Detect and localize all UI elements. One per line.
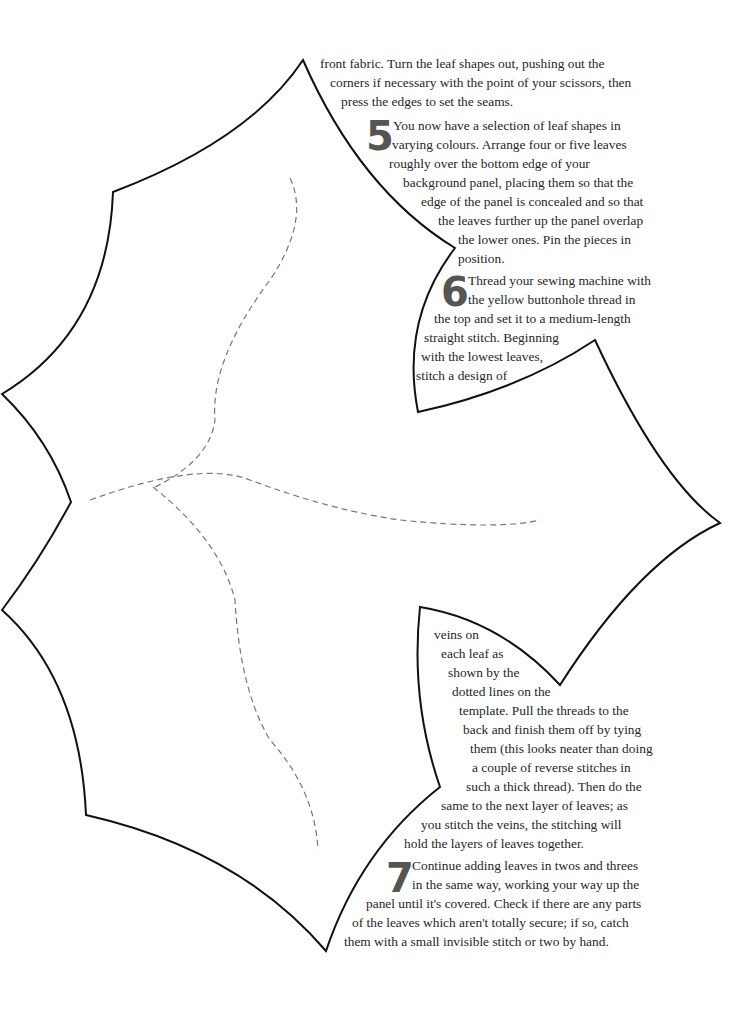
step-6-line: veins on xyxy=(434,627,479,643)
step-7-line: in the same way, working your way up the xyxy=(412,877,639,893)
step-7-line: panel until it's covered. Check if there… xyxy=(366,896,641,912)
step-7-line: Continue adding leaves in twos and three… xyxy=(412,858,638,874)
step-6-line: such a thick thread). Then do the xyxy=(466,779,642,795)
step-5-line: background panel, placing them so that t… xyxy=(403,175,633,191)
step-6-line: template. Pull the threads to the xyxy=(459,703,629,719)
step-5-line: the lower ones. Pin the pieces in xyxy=(458,232,631,248)
step-5-line: varying colours. Arrange four or five le… xyxy=(392,137,627,153)
step-6-line: the yellow buttonhole thread in xyxy=(468,292,635,308)
step-number: 7 xyxy=(386,860,414,896)
step-5-line: the leaves further up the panel overlap xyxy=(438,213,643,229)
step-6-line: back and finish them off by tying xyxy=(463,722,641,738)
vein-main xyxy=(90,473,540,525)
intro-line: front fabric. Turn the leaf shapes out, … xyxy=(320,56,605,72)
step-number: 6 xyxy=(441,274,469,310)
step-6-line: stitch a design of xyxy=(416,368,507,384)
step-6-line: with the lowest leaves, xyxy=(421,349,543,365)
intro-line: press the edges to set the seams. xyxy=(341,94,513,110)
step-6-line: hold the layers of leaves together. xyxy=(404,836,584,852)
step-6-line: shown by the xyxy=(448,665,519,681)
step-6-line: dotted lines on the xyxy=(452,684,551,700)
step-6-line: a couple of reverse stitches in xyxy=(472,760,631,776)
step-6-line: each leaf as xyxy=(441,646,503,662)
step-6-line: Thread your sewing machine with xyxy=(468,273,651,289)
step-6-line: same to the next layer of leaves; as xyxy=(441,798,628,814)
vein-lower xyxy=(153,487,318,850)
step-7-line: them with a small invisible stitch or tw… xyxy=(344,934,609,950)
step-6-line: straight stitch. Beginning xyxy=(424,330,559,346)
step-5-line: edge of the panel is concealed and so th… xyxy=(421,194,643,210)
intro-line: corners if necessary with the point of y… xyxy=(330,75,631,91)
step-5-line: position. xyxy=(458,251,505,267)
step-5-line: roughly over the bottom edge of your xyxy=(389,156,590,172)
step-number: 5 xyxy=(366,118,394,154)
step-7-line: of the leaves which aren't totally secur… xyxy=(352,915,629,931)
step-6-line: them (this looks neater than doing xyxy=(470,741,653,757)
step-6-line: the top and set it to a medium-length xyxy=(434,311,631,327)
document-page: front fabric. Turn the leaf shapes out, … xyxy=(0,0,736,1031)
vein-upper xyxy=(155,178,297,487)
step-5-line: You now have a selection of leaf shapes … xyxy=(393,118,621,134)
step-6-line: you stitch the veins, the stitching will xyxy=(421,817,621,833)
